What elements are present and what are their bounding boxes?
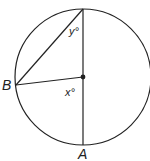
angle-label-y: y°	[68, 25, 80, 37]
center-point	[81, 75, 86, 80]
point-label-a: A	[77, 146, 87, 161]
radius-center-to-b	[16, 77, 83, 85]
point-label-b: B	[2, 77, 11, 93]
chord-top-to-b	[16, 9, 83, 85]
circle-geometry-diagram: B A y° x°	[0, 0, 150, 161]
angle-label-x: x°	[64, 86, 76, 98]
